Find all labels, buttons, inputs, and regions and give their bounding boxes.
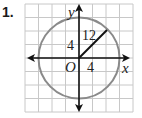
- origin-label: O: [65, 59, 76, 75]
- x-axis-label: x: [121, 60, 129, 76]
- circle-graph-figure: y x O 12 4 4: [0, 0, 142, 118]
- x-tick-label: 4: [87, 60, 94, 75]
- y-tick-label: 4: [67, 38, 74, 53]
- radius-label: 12: [82, 28, 96, 43]
- y-axis-label: y: [66, 4, 75, 20]
